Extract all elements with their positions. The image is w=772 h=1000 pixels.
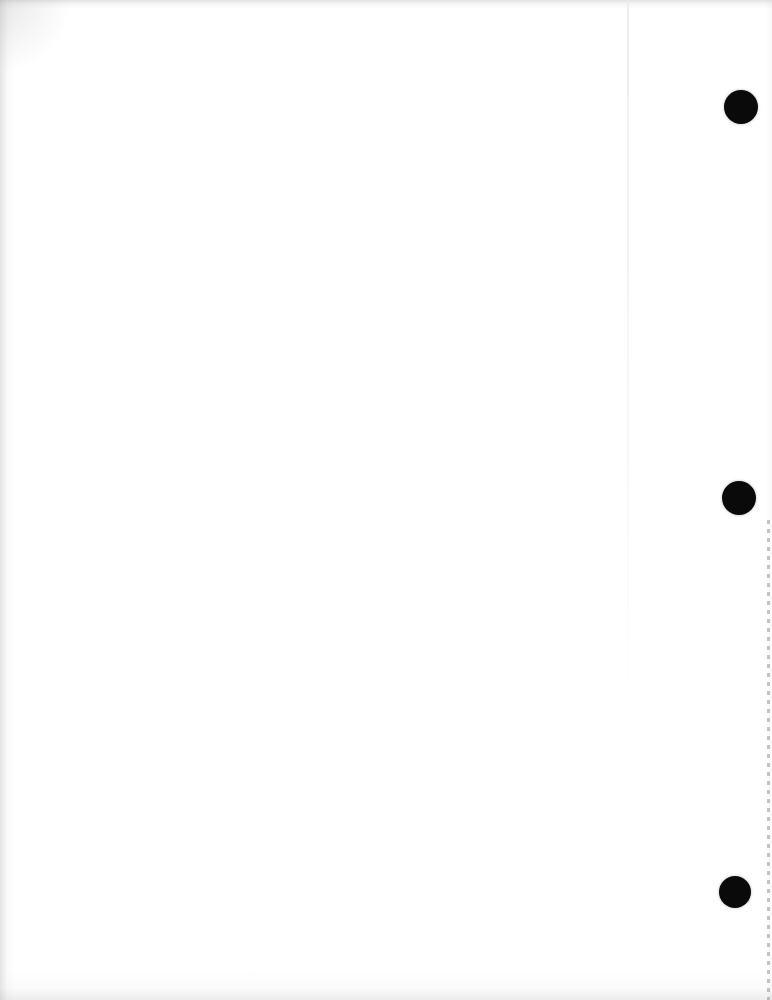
punch-hole-top	[724, 90, 758, 124]
scan-edge-top	[0, 0, 772, 9]
page-body-text	[40, 40, 600, 940]
scanned-page	[0, 0, 772, 1000]
scan-edge-left	[0, 0, 14, 1000]
fold-seam-line	[627, 0, 629, 720]
punch-hole-bottom	[719, 876, 751, 908]
punch-hole-middle	[722, 481, 756, 515]
scan-edge-right	[766, 0, 772, 1000]
perforation-line	[767, 520, 770, 1000]
scan-edge-bottom	[0, 970, 772, 1000]
